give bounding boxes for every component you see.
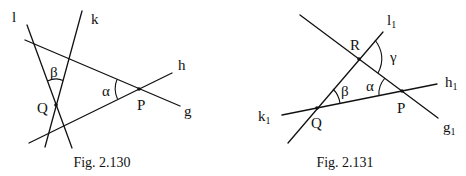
caption-fig-2-131: Fig. 2.131	[316, 155, 373, 170]
label-k1: k1	[258, 108, 271, 126]
label-alpha: α	[102, 83, 110, 99]
caption-fig-2-130: Fig. 2.130	[73, 155, 130, 170]
label-l1: l1	[387, 12, 396, 30]
point-P	[400, 89, 404, 93]
angle-alpha-arc	[379, 78, 385, 96]
line-h	[29, 73, 172, 143]
point-Q	[315, 106, 319, 110]
label-Q: Q	[311, 115, 322, 131]
label-gamma: γ	[389, 49, 397, 65]
label-k: k	[91, 11, 99, 27]
angle-alpha-arc	[115, 80, 117, 100]
label-R: R	[350, 37, 360, 53]
label-Q: Q	[37, 100, 48, 116]
label-h1: h1	[445, 74, 458, 92]
line-g1	[300, 15, 438, 118]
label-P: P	[397, 100, 405, 116]
point-Q	[54, 103, 58, 107]
label-P: P	[137, 97, 145, 113]
label-h: h	[178, 57, 186, 73]
angle-gamma-arc	[375, 40, 382, 73]
label-beta: β	[341, 83, 349, 99]
label-alpha: α	[366, 78, 374, 94]
angle-beta-arc	[333, 89, 340, 104]
point-P	[137, 87, 141, 91]
label-l: l	[12, 9, 16, 25]
diagram-canvas: l k h g β α Q P Fig. 2.130 l1 R γ α β h1…	[0, 0, 466, 176]
label-g1: g1	[443, 119, 456, 137]
label-g: g	[184, 103, 192, 119]
label-beta: β	[50, 64, 58, 80]
figure-2-131: l1 R γ α β h1 k1 Q P g1 Fig. 2.131	[258, 12, 458, 170]
point-R	[357, 57, 361, 61]
figure-2-130: l k h g β α Q P Fig. 2.130	[12, 9, 192, 170]
